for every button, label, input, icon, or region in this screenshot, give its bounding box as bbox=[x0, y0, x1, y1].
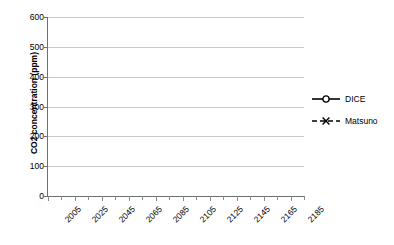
gridline bbox=[48, 136, 304, 137]
gridline bbox=[48, 107, 304, 108]
cross-x-icon bbox=[312, 115, 340, 127]
y-axis-tick-label: 300 bbox=[4, 102, 44, 112]
x-axis-tick-label: 2065 bbox=[143, 204, 163, 224]
gridline bbox=[48, 17, 304, 18]
x-axis-tick-label: 2165 bbox=[278, 204, 298, 224]
x-axis-tick-label: 2005 bbox=[63, 204, 83, 224]
y-axis-tick-label: 500 bbox=[4, 42, 44, 52]
legend-label-dice: DICE bbox=[345, 94, 365, 104]
legend-label-matsuno: Matsuno bbox=[345, 116, 378, 126]
x-axis-tick-label: 2045 bbox=[116, 204, 136, 224]
gridline bbox=[48, 47, 304, 48]
circle-open-icon bbox=[312, 93, 340, 105]
legend-entry-dice: DICE bbox=[312, 88, 392, 110]
co2-concentration-line-chart: CO2 concentration (ppm) 0100200300400500… bbox=[0, 0, 394, 245]
gridline bbox=[48, 77, 304, 78]
y-axis-tick-label: 200 bbox=[4, 131, 44, 141]
x-axis-tick-label: 2025 bbox=[89, 204, 109, 224]
plot-area bbox=[48, 17, 304, 196]
x-axis-tick-label: 2185 bbox=[305, 204, 325, 224]
legend-entry-matsuno: Matsuno bbox=[312, 110, 392, 132]
y-axis-tick-group: 0100200300400500600 bbox=[0, 17, 44, 196]
x-axis-tick-label: 2085 bbox=[170, 204, 190, 224]
y-axis-tick-label: 400 bbox=[4, 72, 44, 82]
gridline bbox=[48, 166, 304, 167]
y-axis-line bbox=[47, 17, 48, 196]
x-axis-tick-label: 2105 bbox=[197, 204, 217, 224]
y-axis-tick-label: 100 bbox=[4, 161, 44, 171]
x-axis-tick-label: 2145 bbox=[251, 204, 271, 224]
x-axis-tick-label: 2125 bbox=[224, 204, 244, 224]
chart-legend: DICE Matsuno bbox=[312, 88, 392, 132]
y-axis-tick-label: 600 bbox=[4, 12, 44, 22]
x-axis-label-group: 2005202520452065208521052125214521652185 bbox=[0, 200, 394, 245]
